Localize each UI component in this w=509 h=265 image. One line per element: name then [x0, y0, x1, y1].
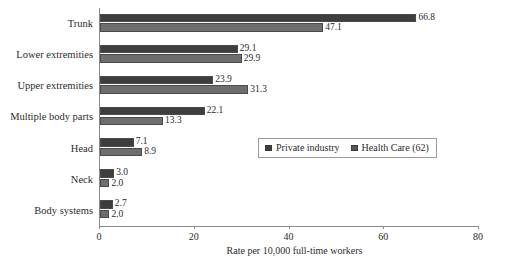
chart-row: Neck3.02.0 [0, 164, 509, 195]
bar-chart: Trunk66.847.1Lower extremities29.129.9Up… [0, 0, 509, 265]
bar-health-care [100, 23, 323, 31]
x-tick [478, 226, 479, 229]
chart-row: Trunk66.847.1 [0, 8, 509, 39]
bar-value-label: 13.3 [165, 115, 182, 125]
x-tick [289, 226, 290, 229]
category-label: Trunk [0, 8, 93, 39]
legend-label: Health Care (62) [362, 142, 429, 154]
legend-item-private-industry: Private industry [265, 142, 340, 154]
bar-value-label: 2.7 [115, 198, 127, 208]
bar-private-industry [100, 76, 213, 84]
category-label: Body systems [0, 195, 93, 226]
x-tick-label: 80 [473, 231, 483, 242]
category-label: Upper extremities [0, 70, 93, 101]
chart-row: Lower extremities29.129.9 [0, 39, 509, 70]
bar-group: 3.02.0 [100, 164, 509, 195]
legend-item-health-care: Health Care (62) [351, 142, 429, 154]
category-label: Lower extremities [0, 39, 93, 70]
x-tick-label: 0 [97, 231, 102, 242]
bar-value-label: 2.0 [111, 209, 123, 219]
bar-health-care [100, 148, 142, 156]
bar-value-label: 8.9 [144, 146, 156, 156]
bar-value-label: 22.1 [207, 105, 224, 115]
legend-label: Private industry [276, 142, 340, 154]
bar-health-care [100, 85, 248, 93]
category-label: Head [0, 133, 93, 164]
bar-health-care [100, 117, 163, 125]
bar-value-label: 7.1 [136, 136, 148, 146]
bar-value-label: 29.1 [240, 43, 257, 53]
x-tick [194, 226, 195, 229]
x-tick-label: 20 [189, 231, 199, 242]
bar-group: 29.129.9 [100, 39, 509, 70]
chart-row: Body systems2.72.0 [0, 195, 509, 226]
chart-row: Multiple body parts22.113.3 [0, 101, 509, 132]
legend-swatch-icon [351, 145, 358, 151]
bar-value-label: 47.1 [325, 22, 342, 32]
x-axis-label: Rate per 10,000 full-time workers [227, 245, 363, 256]
bar-value-label: 31.3 [250, 84, 267, 94]
bar-private-industry [100, 138, 134, 146]
bar-private-industry [100, 200, 113, 208]
legend-swatch-icon [265, 145, 272, 151]
bar-value-label: 23.9 [215, 74, 232, 84]
bar-value-label: 66.8 [418, 12, 435, 22]
bar-health-care [100, 54, 242, 62]
bar-group: 23.931.3 [100, 70, 509, 101]
bar-group: 2.72.0 [100, 195, 509, 226]
bar-private-industry [100, 14, 416, 22]
x-axis-label-wrap: Rate per 10,000 full-time workers [0, 245, 509, 256]
bar-group: 66.847.1 [100, 8, 509, 39]
bar-value-label: 2.0 [111, 178, 123, 188]
x-tick [383, 226, 384, 229]
x-tick [99, 226, 100, 229]
x-tick-label: 60 [378, 231, 388, 242]
x-tick-label: 40 [284, 231, 294, 242]
bar-value-label: 29.9 [244, 53, 261, 63]
bar-health-care [100, 210, 109, 218]
chart-row: Upper extremities23.931.3 [0, 70, 509, 101]
bar-health-care [100, 179, 109, 187]
category-label: Neck [0, 164, 93, 195]
bar-group: 22.113.3 [100, 101, 509, 132]
bar-private-industry [100, 107, 205, 115]
category-label: Multiple body parts [0, 101, 93, 132]
bar-private-industry [100, 45, 238, 53]
chart-legend: Private industry Health Care (62) [258, 138, 437, 158]
bar-private-industry [100, 169, 114, 177]
bar-value-label: 3.0 [116, 167, 128, 177]
